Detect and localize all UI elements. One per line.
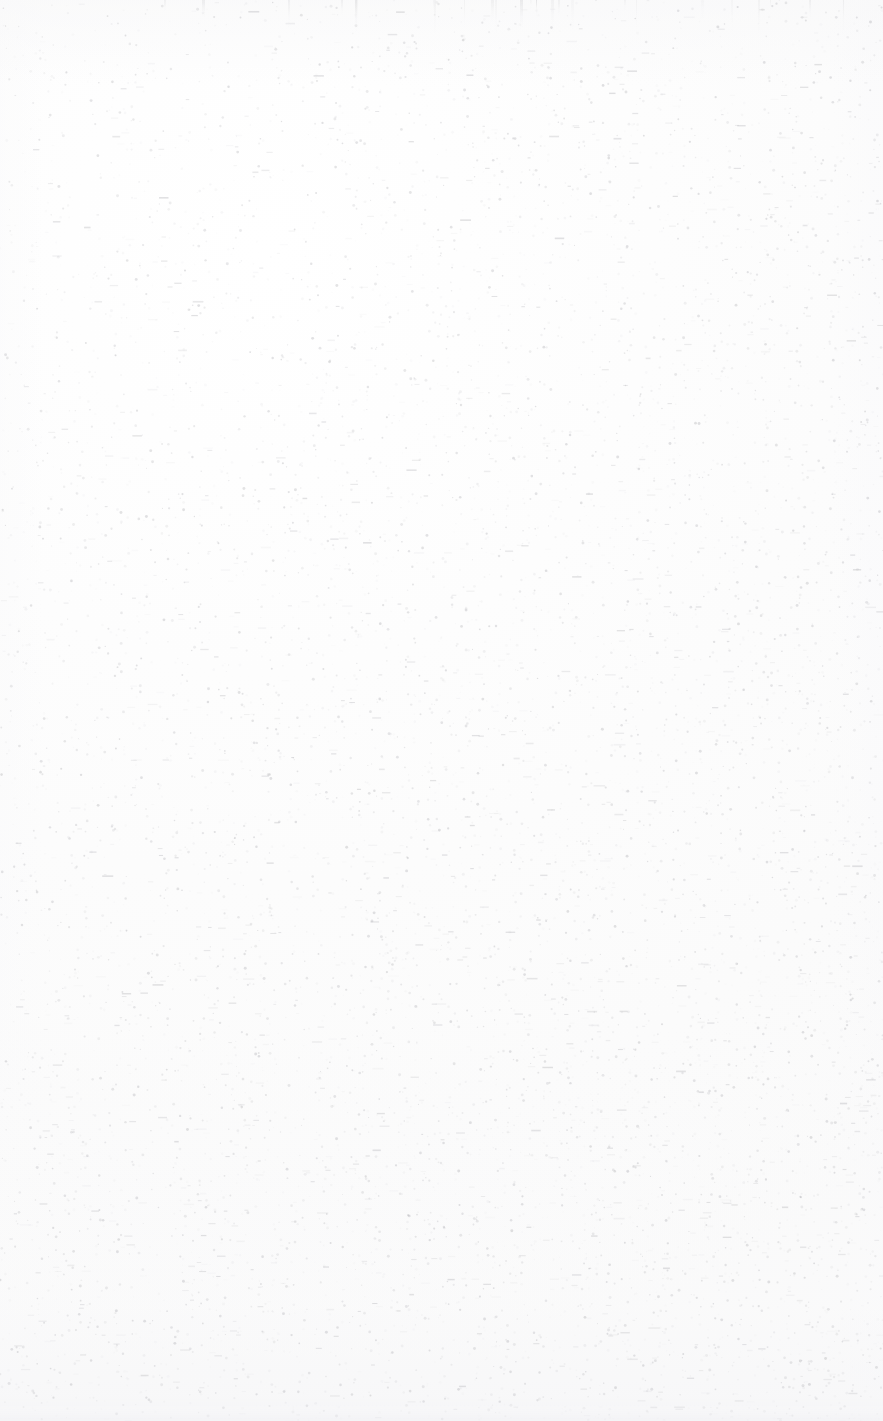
streak-artifact	[433, 0, 435, 14]
streak-artifact	[520, 0, 523, 30]
streak-artifact	[530, 0, 533, 10]
streak-artifact	[341, 0, 343, 16]
streak-artifact	[288, 0, 290, 27]
streak-artifact	[434, 0, 436, 33]
streak-artifact	[202, 0, 205, 20]
streak-artifact	[355, 0, 358, 28]
streak-artifact	[770, 0, 771, 10]
streak-artifact	[495, 0, 497, 36]
streak-artifact	[551, 0, 553, 32]
bottom-edge-noise-band	[0, 1397, 883, 1421]
streak-artifact	[571, 0, 574, 31]
scanned-page	[0, 0, 883, 1421]
streak-artifact	[624, 0, 626, 10]
streak-artifact	[536, 0, 537, 13]
streak-artifact	[758, 0, 760, 35]
streak-artifact	[464, 0, 465, 33]
scanner-speckle-noise	[0, 0, 883, 1421]
streak-artifact	[636, 0, 638, 31]
streak-artifact	[843, 0, 844, 32]
streak-artifact	[491, 0, 494, 22]
streak-artifact	[731, 0, 733, 32]
streak-artifact	[809, 0, 811, 18]
streak-artifact	[701, 0, 704, 18]
streak-artifact	[536, 0, 538, 18]
top-edge-streak-artifacts	[0, 0, 883, 34]
streak-artifact	[164, 0, 167, 13]
paper-tone-overlay	[0, 0, 883, 1421]
streak-artifact	[558, 0, 560, 18]
streak-artifact	[355, 0, 357, 34]
